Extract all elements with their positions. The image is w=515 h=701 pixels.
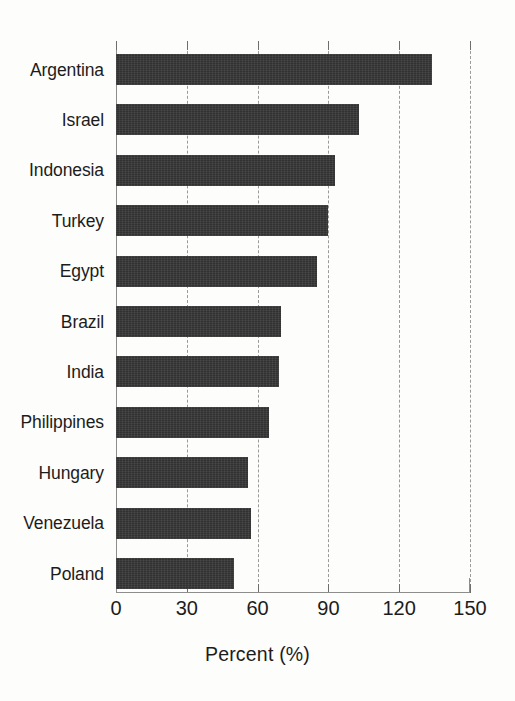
plot-area: ArgentinaIsraelIndonesiaTurkeyEgyptBrazi… (0, 0, 515, 701)
bar-poland (116, 558, 234, 589)
tick-top-90 (328, 41, 329, 50)
bar-row: Poland (0, 558, 515, 589)
category-label-venezuela: Venezuela (23, 513, 104, 534)
bar-argentina (116, 54, 432, 85)
bar-row: Turkey (0, 205, 515, 236)
x-axis-title: Percent (%) (0, 643, 515, 666)
category-label-brazil: Brazil (61, 311, 104, 332)
x-tick-label-30: 30 (176, 597, 198, 620)
bar-venezuela (116, 508, 251, 539)
bar-row: Egypt (0, 256, 515, 287)
x-tick-label-0: 0 (110, 597, 121, 620)
bar-india (116, 356, 279, 387)
bar-row: Brazil (0, 306, 515, 337)
category-label-india: India (67, 361, 104, 382)
bar-row: India (0, 356, 515, 387)
x-axis-line (116, 592, 470, 593)
category-label-philippines: Philippines (20, 412, 104, 433)
tick-top-60 (258, 41, 259, 50)
tick-top-30 (187, 41, 188, 50)
bar-hungary (116, 457, 248, 488)
bar-row: Venezuela (0, 508, 515, 539)
bar-chart-figure: ArgentinaIsraelIndonesiaTurkeyEgyptBrazi… (0, 0, 515, 701)
bar-brazil (116, 306, 281, 337)
bar-row: Argentina (0, 54, 515, 85)
bar-egypt (116, 256, 317, 287)
x-tick-label-150: 150 (453, 597, 486, 620)
bar-row: Indonesia (0, 155, 515, 186)
bar-turkey (116, 205, 328, 236)
category-label-argentina: Argentina (30, 59, 104, 80)
bar-row: Israel (0, 104, 515, 135)
tick-top-150 (470, 41, 471, 50)
category-label-poland: Poland (50, 563, 104, 584)
x-tick-label-90: 90 (317, 597, 339, 620)
bar-israel (116, 104, 359, 135)
x-tick-label-60: 60 (246, 597, 268, 620)
category-label-israel: Israel (62, 109, 104, 130)
bar-row: Hungary (0, 457, 515, 488)
bar-row: Philippines (0, 407, 515, 438)
bar-indonesia (116, 155, 335, 186)
category-label-hungary: Hungary (39, 462, 104, 483)
bar-philippines (116, 407, 269, 438)
tick-top-120 (399, 41, 400, 50)
category-label-egypt: Egypt (60, 261, 104, 282)
x-tick-label-120: 120 (383, 597, 416, 620)
category-label-turkey: Turkey (52, 210, 104, 231)
tick-top-0 (116, 41, 117, 50)
category-label-indonesia: Indonesia (29, 160, 104, 181)
